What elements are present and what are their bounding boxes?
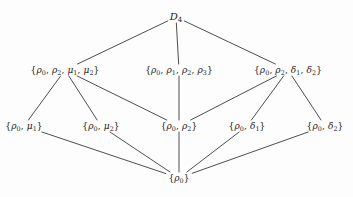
lattice-node-identity: {ρ0} (167, 174, 190, 183)
lattice-node-d4: D4 (169, 12, 184, 22)
lattice-node-rho-group: {ρ0, ρ1, ρ2, ρ3} (144, 66, 214, 75)
lattice-edge-d4-to-rho-group (176, 23, 178, 64)
lattice-edge-mu1-to-identity (42, 132, 166, 174)
lattice-node-delta2: {ρ0, δ2} (306, 122, 345, 131)
lattice-edge-delta2-to-identity (192, 132, 308, 173)
lattice-node-mu1: {ρ0, μ1} (4, 122, 43, 131)
lattice-node-mu2: {ρ0, μ2} (81, 122, 120, 131)
lattice-edge-mu-group-to-rho2 (77, 76, 167, 120)
lattice-edge-mu-group-to-mu2 (69, 76, 97, 120)
lattice-edge-delta-group-to-rho2 (191, 76, 277, 120)
subgroup-lattice-diagram: D4{ρ0, ρ2, μ1, μ2}{ρ0, ρ1, ρ2, ρ3}{ρ0, ρ… (0, 0, 353, 197)
lattice-node-rho2: {ρ0, ρ2} (160, 122, 199, 131)
lattice-node-delta-group: {ρ0, ρ2, δ1, δ2} (253, 66, 323, 75)
lattice-edge-mu-group-to-mu1 (28, 76, 60, 120)
lattice-edge-d4-to-mu-group (78, 21, 168, 64)
lattice-edge-delta-group-to-delta2 (292, 76, 321, 120)
lattice-edge-mu2-to-identity (110, 132, 170, 172)
lattice-edges (0, 0, 353, 197)
lattice-edge-d4-to-delta-group (184, 21, 275, 64)
lattice-edge-delta-group-to-delta1 (251, 76, 283, 120)
lattice-node-mu-group: {ρ0, ρ2, μ1, μ2} (30, 66, 101, 75)
lattice-node-delta1: {ρ0, δ1} (228, 122, 267, 131)
